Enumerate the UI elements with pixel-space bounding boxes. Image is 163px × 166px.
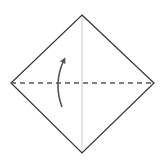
diagram-svg — [0, 0, 163, 166]
origami-diagram — [0, 0, 163, 166]
